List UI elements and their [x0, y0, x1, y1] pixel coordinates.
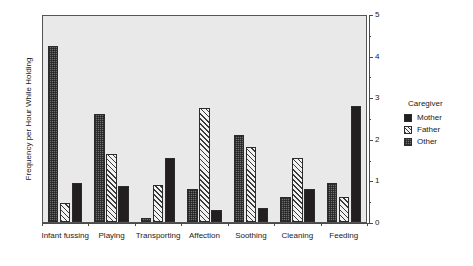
x-axis-tick-label: Cleaning — [282, 231, 314, 241]
legend-items: MotherFatherOther — [404, 112, 470, 147]
plot-area — [42, 15, 367, 223]
legend-item-label: Other — [417, 137, 437, 146]
bar — [280, 197, 291, 222]
y-axis-tick-label: 1 — [375, 177, 379, 185]
bar — [234, 135, 245, 222]
bar-group — [327, 16, 362, 222]
x-axis-tick — [274, 223, 275, 226]
legend: Caregiver MotherFatherOther — [404, 98, 470, 148]
bar — [258, 208, 269, 222]
other-swatch-icon — [404, 138, 412, 146]
bar — [304, 189, 315, 222]
bar-group — [280, 16, 315, 222]
bar — [94, 114, 105, 222]
bar — [211, 210, 222, 222]
y-axis-minor-tick — [369, 36, 371, 37]
y-axis-title: Frequency per Hour While Holding — [22, 15, 36, 223]
y-axis-tick — [369, 57, 373, 58]
y-axis-tick-label: 2 — [375, 136, 379, 144]
bar — [72, 183, 83, 222]
x-axis-tick — [321, 223, 322, 226]
x-axis-tick — [88, 223, 89, 226]
x-axis-tick — [42, 223, 43, 226]
y-axis-tick-label: 0 — [375, 219, 379, 227]
legend-item-mother[interactable]: Mother — [404, 112, 470, 123]
x-axis-tick-label: Playing — [99, 231, 125, 241]
x-axis-tick — [181, 223, 182, 226]
bar — [141, 218, 152, 222]
legend-item-other[interactable]: Other — [404, 136, 470, 147]
x-axis-tick-label: Affection — [189, 231, 220, 241]
y-axis-tick — [369, 223, 373, 224]
x-axis-tick-label: Transporting — [136, 231, 181, 241]
legend-title: Caregiver — [408, 98, 470, 109]
x-axis-tick-label: Feeding — [329, 231, 358, 241]
legend-item-label: Mother — [417, 113, 442, 122]
y-axis: 012345 — [369, 15, 370, 223]
bar — [351, 106, 362, 222]
x-axis-tick — [367, 223, 368, 226]
bar — [48, 46, 59, 222]
x-axis-tick — [135, 223, 136, 226]
y-axis-tick-label: 5 — [375, 11, 379, 19]
y-axis-minor-tick — [369, 77, 371, 78]
x-axis-tick-labels: Infant fussingPlayingTransportingAffecti… — [42, 231, 367, 245]
bar-chart: Frequency per Hour While Holding 012345 … — [0, 0, 473, 266]
bars-layer — [43, 16, 366, 222]
y-axis-minor-tick — [369, 161, 371, 162]
bar-group — [141, 16, 176, 222]
bar — [118, 186, 129, 222]
bar — [187, 189, 198, 222]
legend-item-father[interactable]: Father — [404, 124, 470, 135]
bar — [106, 154, 117, 222]
father-swatch-icon — [404, 126, 412, 134]
bar-group — [48, 16, 83, 222]
x-axis-tick — [228, 223, 229, 226]
y-axis-tick-label: 4 — [375, 53, 379, 61]
y-axis-minor-tick — [369, 119, 371, 120]
x-axis-tick-label: Soothing — [235, 231, 267, 241]
y-axis-tick — [369, 140, 373, 141]
y-axis-tick — [369, 181, 373, 182]
y-axis-tick — [369, 15, 373, 16]
bar — [199, 108, 210, 222]
bar — [153, 185, 164, 222]
legend-item-label: Father — [417, 125, 440, 134]
bar — [339, 197, 350, 222]
bar — [292, 158, 303, 222]
y-axis-minor-tick — [369, 202, 371, 203]
bar-group — [94, 16, 129, 222]
y-axis-tick-label: 3 — [375, 94, 379, 102]
bar — [246, 147, 257, 222]
bar-group — [187, 16, 222, 222]
bar-group — [234, 16, 269, 222]
y-axis-tick — [369, 98, 373, 99]
x-axis-tick-label: Infant fussing — [41, 231, 89, 241]
bar — [165, 158, 176, 222]
bar — [327, 183, 338, 222]
bar — [60, 203, 71, 222]
mother-swatch-icon — [404, 114, 412, 122]
x-axis — [42, 223, 369, 224]
